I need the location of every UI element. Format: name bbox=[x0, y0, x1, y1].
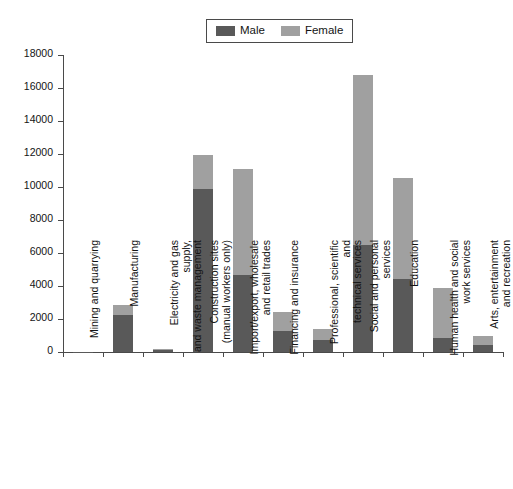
y-axis-tick-mark bbox=[58, 253, 63, 254]
x-axis-tick-mark bbox=[303, 352, 304, 357]
x-axis-label: Construction sites (manual workers only) bbox=[209, 240, 232, 360]
y-axis-tick-mark bbox=[58, 121, 63, 122]
x-axis-tick-mark bbox=[103, 352, 104, 357]
legend-entry-male: Male bbox=[216, 25, 265, 37]
y-axis-tick-mark bbox=[58, 154, 63, 155]
y-axis-tick-mark bbox=[58, 55, 63, 56]
legend-label-female: Female bbox=[305, 25, 343, 37]
y-axis-tick-mark bbox=[58, 187, 63, 188]
y-axis-tick-mark bbox=[58, 88, 63, 89]
bar-segment-female bbox=[353, 75, 373, 245]
y-axis-tick-label: 12000 bbox=[24, 147, 53, 158]
stacked-bar-chart: Male Female 0200040006000800010000120001… bbox=[0, 0, 513, 489]
y-axis-tick-label: 2000 bbox=[30, 312, 53, 323]
legend-swatch-female bbox=[281, 26, 300, 36]
x-axis-label: Mining and quarrying bbox=[89, 240, 101, 360]
legend-swatch-male bbox=[216, 26, 235, 36]
y-axis-tick-label: 4000 bbox=[30, 279, 53, 290]
bar-segment-female bbox=[193, 155, 213, 189]
y-axis-tick-mark bbox=[58, 286, 63, 287]
x-axis-tick-mark bbox=[63, 352, 64, 357]
x-axis-label: Social and personal services bbox=[369, 240, 392, 360]
y-axis-tick-label: 10000 bbox=[24, 180, 53, 191]
y-axis-line bbox=[63, 55, 64, 353]
x-axis-label: Financing and insurance bbox=[289, 240, 301, 360]
y-axis-tick-label: 0 bbox=[47, 345, 53, 356]
x-axis-label: Professional, scientific and technical s… bbox=[329, 240, 364, 360]
legend-entry-female: Female bbox=[281, 25, 343, 37]
x-axis-label: Human health and social work services bbox=[449, 240, 472, 360]
x-axis-label: Arts, entertainment and recreation bbox=[489, 240, 512, 360]
x-axis-label: Electricity and gas supply, and waste ma… bbox=[169, 240, 204, 360]
x-axis-label: Manufacturing bbox=[129, 240, 141, 360]
y-axis-tick-label: 14000 bbox=[24, 114, 53, 125]
y-axis-tick-label: 18000 bbox=[24, 48, 53, 59]
y-axis-tick-label: 16000 bbox=[24, 81, 53, 92]
x-axis-tick-mark bbox=[143, 352, 144, 357]
chart-legend: Male Female bbox=[206, 19, 353, 43]
y-axis-tick-label: 8000 bbox=[30, 213, 53, 224]
legend-label-male: Male bbox=[240, 25, 265, 37]
y-axis-tick-mark bbox=[58, 220, 63, 221]
y-axis-tick-mark bbox=[58, 319, 63, 320]
x-axis-label: Education bbox=[409, 240, 421, 360]
y-axis-tick-label: 6000 bbox=[30, 246, 53, 257]
x-axis-label: Import/export, wholesale and retail trad… bbox=[249, 240, 272, 360]
x-axis-tick-mark bbox=[423, 352, 424, 357]
